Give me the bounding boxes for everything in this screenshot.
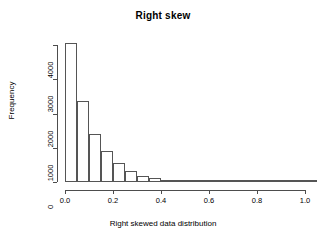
histogram-bar xyxy=(89,134,101,182)
histogram-bar xyxy=(281,180,293,182)
page-title: Right skew xyxy=(0,10,326,21)
histogram-bar xyxy=(245,180,257,182)
histogram-bar xyxy=(137,176,149,183)
x-axis-label: Right skewed data distribution xyxy=(0,219,326,228)
histogram-bars xyxy=(57,38,319,182)
x-axis-tick xyxy=(209,190,210,194)
histogram-bar xyxy=(113,163,125,182)
histogram-bar xyxy=(209,180,221,182)
x-axis-tick xyxy=(305,190,306,194)
histogram-bar xyxy=(149,178,161,182)
y-axis-tick-label: 4000 xyxy=(46,45,55,95)
x-axis-tick-label: 0.0 xyxy=(50,196,80,205)
x-axis-tick-label: 0.8 xyxy=(242,196,272,205)
histogram-bar xyxy=(269,180,281,182)
x-axis-tick xyxy=(257,190,258,194)
histogram-bar xyxy=(185,180,197,182)
x-axis-tick-label: 1.0 xyxy=(290,196,320,205)
histogram-bar xyxy=(233,180,245,182)
histogram-bar xyxy=(257,180,269,182)
histogram-screenshot: Right skew Frequency 01000200030004000 0… xyxy=(0,0,326,246)
y-axis-label: Frequency xyxy=(7,71,16,131)
histogram-bar xyxy=(125,171,137,182)
histogram-bar xyxy=(161,180,173,182)
histogram-bar xyxy=(197,180,209,182)
histogram-bar xyxy=(65,43,77,182)
histogram-bar xyxy=(221,180,233,182)
x-axis-line xyxy=(65,190,306,191)
histogram-bar xyxy=(305,180,317,182)
x-axis-tick-label: 0.2 xyxy=(98,196,128,205)
histogram-bar xyxy=(77,101,89,182)
histogram-bar xyxy=(101,151,113,182)
x-axis-tick xyxy=(161,190,162,194)
x-axis-tick xyxy=(113,190,114,194)
plot-area xyxy=(57,38,319,182)
x-axis-tick-label: 0.6 xyxy=(194,196,224,205)
x-axis-tick-label: 0.4 xyxy=(146,196,176,205)
histogram-bar xyxy=(293,180,305,182)
histogram-bar xyxy=(173,180,185,182)
x-axis-tick xyxy=(65,190,66,194)
